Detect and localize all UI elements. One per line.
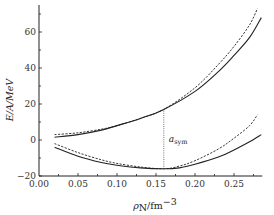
series-upper-solid: [55, 18, 262, 138]
x-tick-label: 0.00: [29, 179, 49, 189]
x-axis-label-unit: /fm: [147, 200, 163, 211]
y-tick-label: 0: [30, 135, 36, 145]
x-tick-label: 0.20: [185, 179, 205, 189]
series-lower-solid: [55, 135, 262, 169]
y-axis-label: E/A/MeV: [4, 78, 15, 123]
asym-label: asym: [169, 134, 188, 146]
x-axis-label: ρN/fm−3: [132, 196, 177, 213]
x-axis-label-exp: −3: [163, 196, 177, 207]
series-upper-dashed: [55, 9, 258, 135]
axes: −2002040600.000.050.100.150.200.25: [17, 5, 262, 189]
x-tick-label: 0.05: [68, 179, 88, 189]
x-tick-label: 0.25: [224, 179, 244, 189]
series-group: [55, 9, 262, 169]
x-axis-label-sub: N: [139, 202, 147, 213]
y-tick-label: 40: [25, 63, 37, 73]
x-tick-label: 0.10: [107, 179, 127, 189]
series-lower-dashed: [55, 115, 258, 169]
chart: −2002040600.000.050.100.150.200.25 asym …: [0, 0, 274, 215]
y-tick-label: 60: [25, 27, 37, 37]
annotations: asym: [164, 109, 188, 168]
y-tick-label: 20: [25, 99, 37, 109]
x-tick-label: 0.15: [146, 179, 166, 189]
